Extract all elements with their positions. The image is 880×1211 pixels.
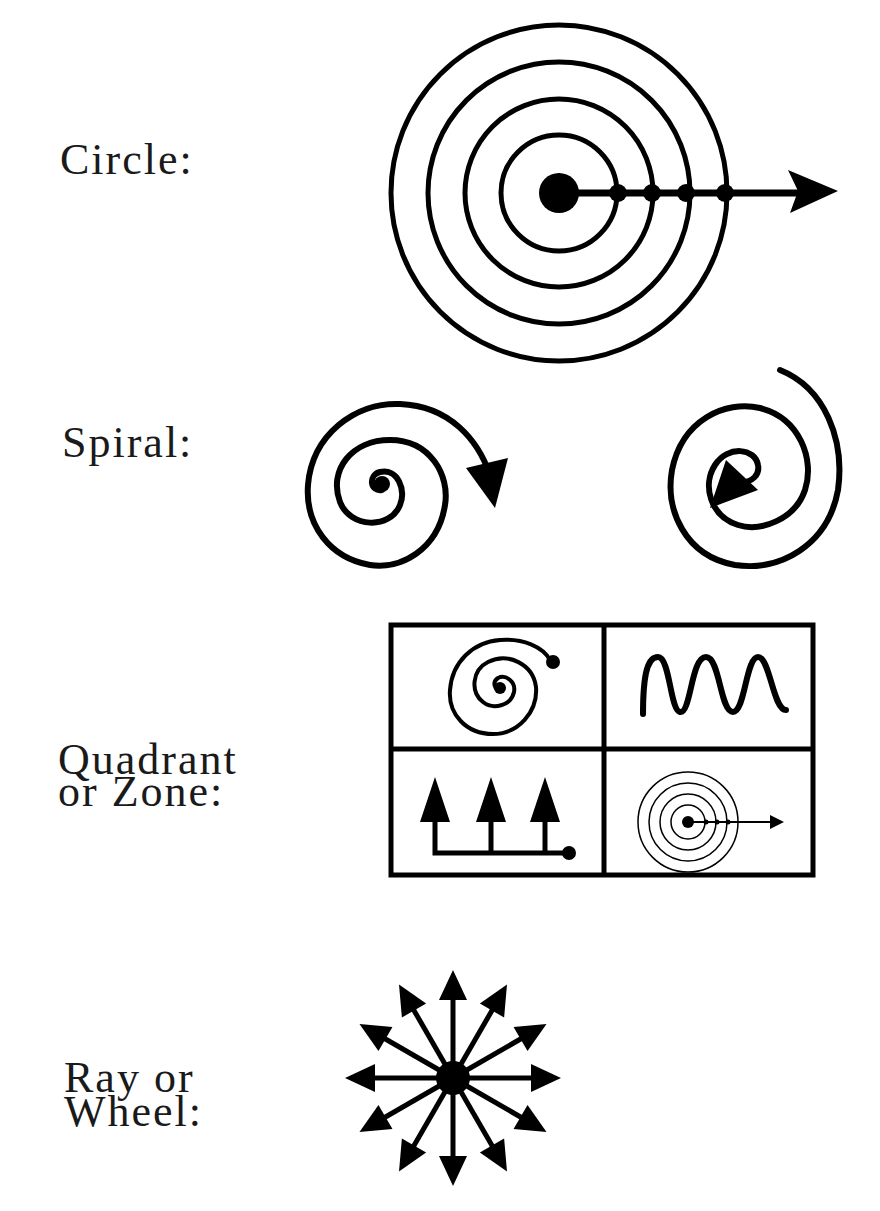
quadrant-wave-icon <box>643 657 786 714</box>
quadrant-spiral-icon <box>450 640 560 734</box>
label-circle: Circle: <box>60 140 194 180</box>
label-quadrant-line2: or Zone: <box>58 772 238 812</box>
label-quadrant: Quadrant or Zone: <box>58 740 238 812</box>
concentric-circles-figure <box>380 20 850 380</box>
quadrant-up-arrows-icon <box>420 777 576 860</box>
label-spiral: Spiral: <box>62 423 193 463</box>
quadrant-concentric-icon <box>638 772 784 872</box>
spiral-right-figure <box>630 360 860 580</box>
label-circle-text: Circle: <box>60 135 194 184</box>
spiral-left-figure <box>290 380 520 580</box>
concentric-circles-icon <box>380 20 850 380</box>
quadrant-grid-figure <box>388 622 818 880</box>
ray-wheel-icon <box>340 965 570 1195</box>
spiral-counterclockwise-icon <box>630 360 860 580</box>
label-ray: Ray or Wheel: <box>64 1058 203 1132</box>
label-spiral-text: Spiral: <box>62 418 193 467</box>
label-ray-line2: Wheel: <box>64 1092 203 1132</box>
quadrant-grid-icon <box>388 622 818 880</box>
spiral-clockwise-icon <box>290 380 520 580</box>
ray-wheel-figure <box>340 965 570 1195</box>
